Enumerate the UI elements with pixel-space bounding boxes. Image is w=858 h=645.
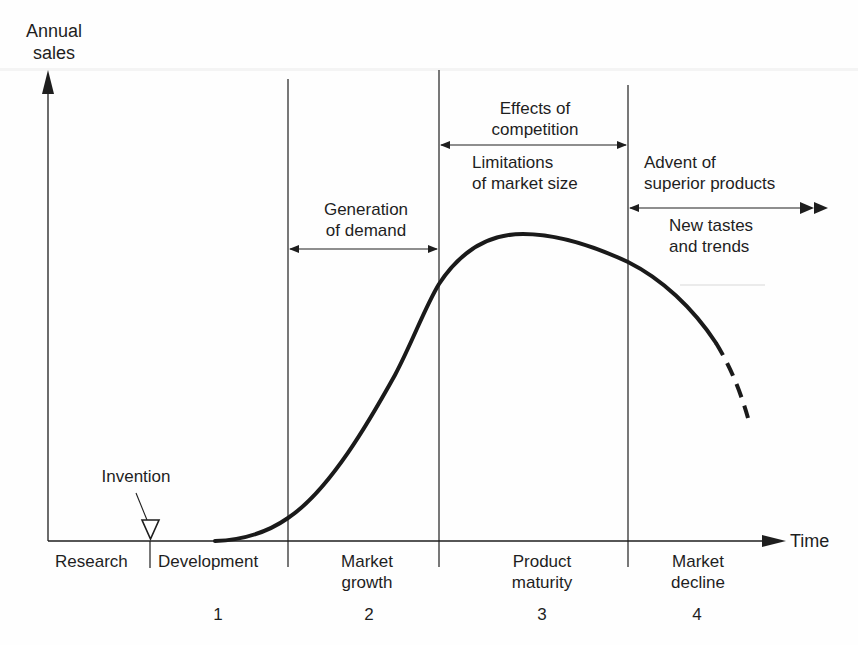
limitations-of-market-size-label: Limitations of market size <box>472 152 578 194</box>
phase-number-3: 3 <box>537 604 546 625</box>
x-axis-arrow-icon <box>762 535 786 547</box>
development-label: Development <box>158 551 258 572</box>
effects-of-competition-label: Effects of competition <box>492 98 579 140</box>
advent-of-superior-products-label: Advent of superior products <box>644 152 775 194</box>
product-maturity-label: Product maturity <box>512 551 572 593</box>
market-decline-label: Market decline <box>671 551 725 593</box>
market-growth-label: Market growth <box>341 551 393 593</box>
product-life-cycle-diagram: Annual sales Time Invention Research Dev… <box>0 0 858 645</box>
invention-label: Invention <box>102 466 171 487</box>
diagram-graphics <box>0 0 858 645</box>
y-axis <box>42 70 54 541</box>
x-axis-label: Time <box>790 531 829 552</box>
x-axis <box>48 535 786 547</box>
research-label: Research <box>55 551 128 572</box>
sales-curve <box>215 234 748 541</box>
y-axis-label: Annual sales <box>26 20 82 64</box>
invention-marker-icon <box>136 493 159 539</box>
phase-number-4: 4 <box>692 604 701 625</box>
new-tastes-and-trends-label: New tastes and trends <box>669 215 753 257</box>
y-axis-arrow-icon <box>42 70 54 94</box>
generation-of-demand-label: Generation of demand <box>324 199 408 241</box>
phase-number-2: 2 <box>364 604 373 625</box>
phase-number-1: 1 <box>213 604 222 625</box>
